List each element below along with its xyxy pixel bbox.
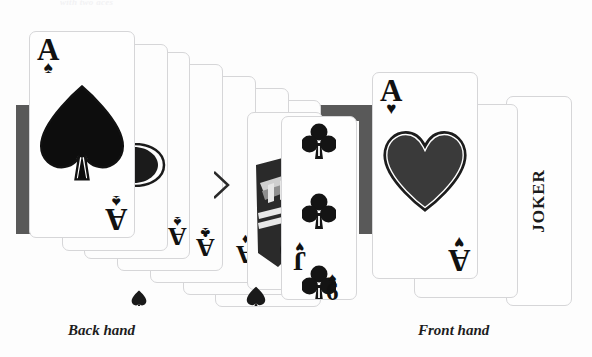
club-icon xyxy=(302,123,336,159)
card-index-bottom-right: A ♠ xyxy=(105,193,127,233)
card-rank-label: 6 xyxy=(326,281,339,303)
joker-label: JOKER xyxy=(529,169,549,233)
playing-card-ace-of-spades[interactable]: A ♠ A ♠ xyxy=(29,31,135,238)
card-index-top-left: A ♥ xyxy=(380,77,402,117)
club-icon xyxy=(302,193,336,229)
heart-icon: ♥ xyxy=(386,102,396,117)
club-icon: ♣ xyxy=(200,226,210,239)
card-index-six-of-spades: ♠ 6 xyxy=(326,272,339,303)
heart-icon: ♥ xyxy=(295,240,304,253)
heart-icon: ♥ xyxy=(454,234,464,249)
spade-icon xyxy=(243,286,269,306)
caption-front-hand: Front hand xyxy=(418,322,489,339)
big-heart-icon xyxy=(379,127,471,213)
caption-back-hand: Back hand xyxy=(68,322,135,339)
card-index-ace-of-spades-2: A ♠ xyxy=(168,215,187,247)
big-spade-icon xyxy=(35,80,129,184)
card-index-bottom-right: A ♥ xyxy=(448,234,470,274)
partial-pip-icon xyxy=(134,143,170,187)
card-index-ace-of-clubs-1: A ♣ xyxy=(196,226,215,258)
top-caption: with two aces xyxy=(60,0,300,6)
spade-icon: ♠ xyxy=(173,215,181,228)
playing-card-ace-of-hearts[interactable]: A ♥ A ♥ xyxy=(372,72,478,279)
spade-icon: ♠ xyxy=(44,61,53,76)
card-index-jack-of-hearts: J ♥ xyxy=(293,240,307,272)
spade-icon: ♠ xyxy=(111,193,120,208)
card-index-top-left: A ♠ xyxy=(37,36,59,76)
card-spread-photograph: with two aces A ♠ A ♣ A ♦ xyxy=(0,0,592,357)
spade-icon xyxy=(127,290,151,306)
diamond-icon xyxy=(214,170,236,200)
